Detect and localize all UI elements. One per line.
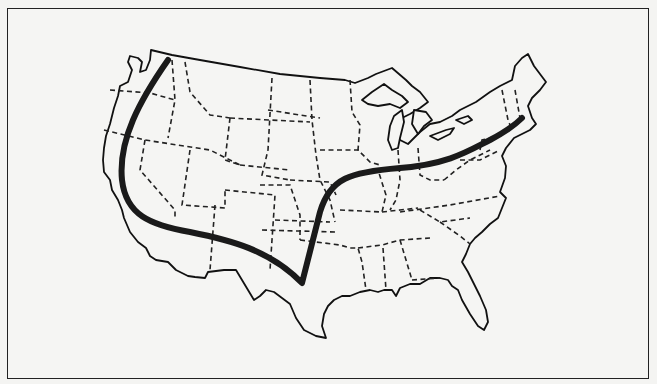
lake-michigan bbox=[388, 110, 404, 150]
highlighted-boundary bbox=[122, 60, 522, 283]
country-outline bbox=[103, 50, 546, 338]
lake-ontario bbox=[456, 116, 472, 124]
lake-superior bbox=[362, 84, 408, 108]
us-map bbox=[0, 0, 657, 384]
lake-erie bbox=[430, 128, 454, 140]
